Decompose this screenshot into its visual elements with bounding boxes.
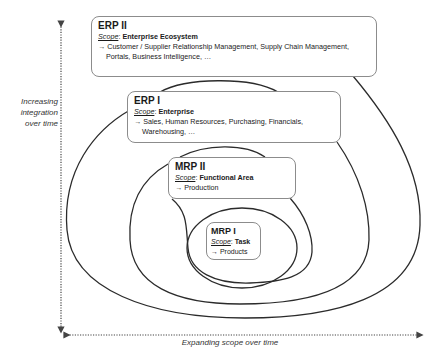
erp1-scope-curve-top (180, 147, 265, 157)
scope-label: Scope (98, 32, 118, 41)
erp1-title: ERP I (134, 95, 334, 107)
erp1-scope-value: Enterprise (158, 107, 194, 116)
erp1-items: → Sales, Human Resources, Purchasing, Fi… (134, 117, 334, 137)
mrp1-box: MRP I Scope: Task → Products (206, 222, 261, 260)
mrp2-items: → Production (175, 183, 289, 193)
erp1-box: ERP I Scope: Enterprise → Sales, Human R… (127, 91, 341, 143)
y-axis-label: Increasing integration over time (4, 96, 58, 129)
scope-label: Scope (175, 173, 195, 182)
mrp2-box: MRP II Scope: Functional Area → Producti… (168, 157, 296, 199)
erp2-items: → Customer / Supplier Relationship Manag… (98, 42, 370, 62)
erp1-scope: Scope: Enterprise (134, 107, 334, 117)
mrp1-items: → Products (211, 247, 256, 257)
erp2-scope: Scope: Enterprise Ecosystem (98, 32, 370, 42)
scope-label: Scope (211, 238, 231, 245)
x-axis-label: Expanding scope over time (150, 337, 310, 348)
scope-label: Scope (134, 107, 154, 116)
mrp1-title: MRP I (211, 225, 256, 237)
erp2-box: ERP II Scope: Enterprise Ecosystem → Cus… (91, 16, 377, 77)
mrp2-scope-value: Functional Area (199, 173, 253, 182)
erp2-scope-value: Enterprise Ecosystem (122, 32, 198, 41)
mrp1-scope-value: Task (235, 238, 250, 245)
mrp1-scope: Scope: Task (211, 237, 256, 247)
erp2-title: ERP II (98, 20, 370, 32)
mrp2-title: MRP II (175, 161, 289, 173)
mrp2-scope: Scope: Functional Area (175, 173, 289, 183)
